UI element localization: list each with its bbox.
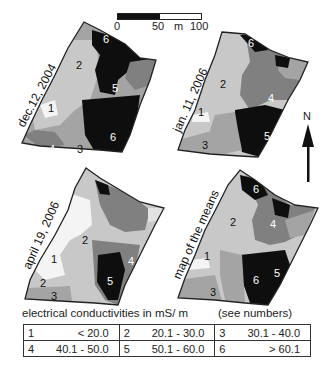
zone-label: 6 bbox=[248, 37, 254, 49]
legend-class-range: < 20.0 bbox=[42, 325, 119, 341]
zone-label: 3 bbox=[210, 286, 216, 298]
legend-class-range: 30.1 - 40.0 bbox=[233, 325, 310, 341]
zone-label: 4 bbox=[49, 143, 55, 155]
zone-label: 1 bbox=[48, 102, 54, 114]
legend-class-range: 40.1 - 50.0 bbox=[42, 341, 119, 357]
zone-label: 6 bbox=[253, 274, 259, 286]
legend-title: electrical conductivities in mS/ m bbox=[22, 307, 188, 319]
zone-label: 1 bbox=[204, 250, 210, 262]
zone-label: 6 bbox=[253, 183, 259, 195]
zone-label: 4 bbox=[128, 255, 134, 267]
zone-label: 6 bbox=[103, 33, 109, 45]
legend-class-number: 2 bbox=[119, 325, 138, 341]
field-map-apr-2006: april 19, 2006 2 4 1 5 2 3 bbox=[0, 160, 165, 310]
zone-label: 2 bbox=[76, 59, 82, 71]
zone-label: 3 bbox=[77, 143, 83, 155]
zone-label: 4 bbox=[268, 92, 274, 104]
zone-label: 3 bbox=[202, 139, 208, 151]
legend-class-range: 20.1 - 30.0 bbox=[138, 325, 215, 341]
legend-class-number: 6 bbox=[215, 341, 234, 357]
legend-class-range: 50.1 - 60.0 bbox=[138, 341, 215, 357]
zone-label: 5 bbox=[112, 82, 118, 94]
zone-label: 4 bbox=[270, 218, 276, 230]
zone-label: 5 bbox=[107, 275, 113, 287]
legend-note: (see numbers) bbox=[218, 307, 292, 319]
legend-table: 1 < 20.0 2 20.1 - 30.0 3 30.1 - 40.0 4 4… bbox=[23, 324, 311, 357]
zone-label: 1 bbox=[198, 106, 204, 118]
zone-label: 2 bbox=[40, 277, 46, 289]
legend-class-number: 3 bbox=[215, 325, 234, 341]
legend-row: 4 40.1 - 50.0 5 50.1 - 60.0 6 > 60.1 bbox=[24, 341, 311, 357]
legend-class-number: 5 bbox=[119, 341, 138, 357]
legend-class-number: 1 bbox=[24, 325, 43, 341]
zone-label: 6 bbox=[110, 131, 116, 143]
zone-label: 2 bbox=[220, 78, 226, 90]
zone-label: 2 bbox=[230, 216, 236, 228]
legend-class-number: 4 bbox=[24, 341, 43, 357]
legend-row: 1 < 20.0 2 20.1 - 30.0 3 30.1 - 40.0 bbox=[24, 325, 311, 341]
zone-label: 1 bbox=[51, 253, 57, 265]
zone-label: 3 bbox=[51, 290, 57, 302]
field-map-dec-2004: dec.12, 2004 6 2 5 1 6 4 3 bbox=[0, 0, 165, 160]
zone-label: 5 bbox=[274, 267, 280, 279]
legend-class-range: > 60.1 bbox=[233, 341, 310, 357]
field-map-means: map of the means 6 2 4 1 6 5 3 bbox=[160, 160, 328, 310]
zone-label: 5 bbox=[264, 130, 270, 142]
zone-label: 2 bbox=[82, 234, 88, 246]
